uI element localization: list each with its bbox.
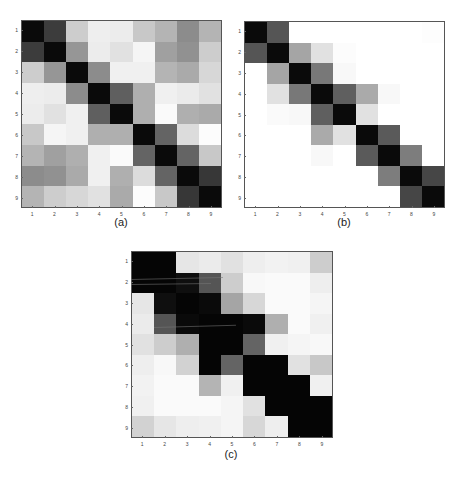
heatmap-cell-r5-c8 bbox=[288, 334, 310, 355]
heatmap-cell-r6-c5 bbox=[110, 124, 132, 145]
heatmap-cell-r5-c1 bbox=[132, 334, 154, 355]
heatmap-cell-r3-c8 bbox=[400, 63, 422, 84]
heatmap-cell-r1-c5 bbox=[333, 22, 355, 43]
x-tick-label: 1 bbox=[137, 441, 147, 447]
heatmap-cell-r7-c4 bbox=[199, 375, 221, 396]
y-tick-label: 4 bbox=[233, 91, 241, 97]
heatmap-cell-r7-c7 bbox=[378, 145, 400, 166]
y-tick-mark bbox=[21, 93, 23, 94]
heatmap-cell-r1-c4 bbox=[88, 21, 110, 42]
x-tick-label: 4 bbox=[205, 441, 215, 447]
heatmap-cell-r3-c2 bbox=[267, 63, 289, 84]
heatmap-cell-r1-c3 bbox=[289, 22, 311, 43]
heatmap-cell-r6-c3 bbox=[176, 355, 198, 376]
heatmap-cell-r1-c6 bbox=[133, 21, 155, 42]
heatmap-cell-r1-c7 bbox=[378, 22, 400, 43]
heatmap-cell-r8-c7 bbox=[265, 396, 287, 417]
heatmap-cell-r2-c7 bbox=[378, 43, 400, 64]
heatmap-cell-r1-c8 bbox=[288, 252, 310, 273]
heatmap-cell-r6-c7 bbox=[378, 125, 400, 146]
heatmap-cell-r3-c4 bbox=[88, 62, 110, 83]
y-tick-label: 9 bbox=[233, 195, 241, 201]
x-tick-label: 6 bbox=[249, 441, 259, 447]
x-tick-label: 9 bbox=[317, 441, 327, 447]
heatmap-cell-r9-c6 bbox=[356, 186, 378, 207]
heatmap-cell-r3-c2 bbox=[44, 62, 66, 83]
heatmap-cell-r3-c5 bbox=[333, 63, 355, 84]
heatmap-cell-r4-c5 bbox=[110, 83, 132, 104]
heatmap-cell-r1-c4 bbox=[199, 252, 221, 273]
heatmap-cell-r6-c8 bbox=[177, 124, 199, 145]
heatmap-cell-r8-c8 bbox=[400, 166, 422, 187]
y-tick-label: 3 bbox=[120, 300, 128, 306]
heatmap-cell-r3-c1 bbox=[22, 62, 44, 83]
heatmap-cell-r8-c8 bbox=[177, 166, 199, 187]
x-tick-mark bbox=[232, 436, 233, 438]
y-tick-mark bbox=[244, 94, 246, 95]
y-tick-mark bbox=[131, 428, 133, 429]
heatmap-cell-r7-c5 bbox=[110, 145, 132, 166]
heatmap-cell-r3-c8 bbox=[288, 293, 310, 314]
heatmap-cell-r3-c3 bbox=[66, 62, 88, 83]
heatmap-cell-r1-c1 bbox=[245, 22, 267, 43]
y-tick-label: 8 bbox=[120, 404, 128, 410]
heatmap-cell-r1-c7 bbox=[155, 21, 177, 42]
x-tick-label: 7 bbox=[161, 211, 171, 217]
heatmap-cell-r1-c2 bbox=[44, 21, 66, 42]
heatmap-cell-r4-c9 bbox=[199, 83, 221, 104]
y-tick-label: 5 bbox=[233, 112, 241, 118]
y-tick-mark bbox=[131, 407, 133, 408]
heatmap-cell-r6-c6 bbox=[356, 125, 378, 146]
heatmap-cell-r9-c6 bbox=[243, 416, 265, 437]
y-tick-mark bbox=[131, 365, 133, 366]
y-tick-mark bbox=[131, 345, 133, 346]
heatmap-cell-r1-c9 bbox=[422, 22, 444, 43]
heatmap-cell-r2-c3 bbox=[66, 42, 88, 63]
y-tick-label: 3 bbox=[233, 70, 241, 76]
heatmap-panel-a: 123456789123456789 bbox=[9, 20, 224, 220]
heatmap-cell-r2-c5 bbox=[221, 273, 243, 294]
y-tick-label: 7 bbox=[10, 153, 18, 159]
y-tick-mark bbox=[244, 135, 246, 136]
heatmap-cell-r1-c3 bbox=[66, 21, 88, 42]
x-tick-label: 2 bbox=[160, 441, 170, 447]
heatmap-cell-r7-c4 bbox=[311, 145, 333, 166]
heatmap-cell-r4-c1 bbox=[245, 84, 267, 105]
heatmap-cell-r1-c6 bbox=[356, 22, 378, 43]
y-tick-label: 5 bbox=[120, 342, 128, 348]
x-tick-mark bbox=[322, 436, 323, 438]
heatmap-cell-r4-c3 bbox=[176, 314, 198, 335]
heatmap-cell-r6-c6 bbox=[243, 355, 265, 376]
y-tick-label: 5 bbox=[10, 111, 18, 117]
heatmap-cell-r4-c8 bbox=[400, 84, 422, 105]
heatmap-cell-r9-c1 bbox=[22, 186, 44, 207]
heatmap-cell-r7-c8 bbox=[288, 375, 310, 396]
y-tick-mark bbox=[21, 177, 23, 178]
heatmap-cell-r4-c4 bbox=[88, 83, 110, 104]
heatmap-cell-r5-c4 bbox=[199, 334, 221, 355]
heatmap-cell-r9-c9 bbox=[422, 186, 444, 207]
heatmap-cell-r8-c1 bbox=[22, 166, 44, 187]
y-tick-mark bbox=[244, 52, 246, 53]
heatmap-cell-r4-c1 bbox=[22, 83, 44, 104]
x-tick-mark bbox=[187, 436, 188, 438]
heatmap-cell-r5-c7 bbox=[155, 104, 177, 125]
heatmap-cell-r3-c9 bbox=[310, 293, 332, 314]
heatmap-cell-r2-c7 bbox=[265, 273, 287, 294]
y-tick-mark bbox=[21, 135, 23, 136]
y-tick-mark bbox=[21, 30, 23, 31]
heatmap-cell-r7-c9 bbox=[422, 145, 444, 166]
heatmap-cell-r3-c7 bbox=[265, 293, 287, 314]
y-tick-mark bbox=[21, 72, 23, 73]
heatmap-cell-r4-c4 bbox=[199, 314, 221, 335]
heatmap-cell-r4-c9 bbox=[310, 314, 332, 335]
x-tick-mark bbox=[300, 206, 301, 208]
y-tick-label: 1 bbox=[233, 28, 241, 34]
caption-b: (b) bbox=[329, 216, 359, 228]
heatmap-cell-r4-c6 bbox=[356, 84, 378, 105]
y-tick-mark bbox=[244, 73, 246, 74]
y-tick-mark bbox=[131, 324, 133, 325]
heatmap-grid bbox=[244, 21, 445, 208]
x-tick-mark bbox=[32, 206, 33, 208]
x-tick-label: 9 bbox=[206, 211, 216, 217]
